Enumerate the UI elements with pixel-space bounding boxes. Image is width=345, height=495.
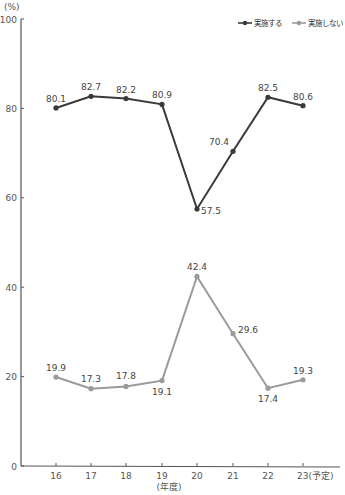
data-point (123, 96, 128, 101)
data-label: 17.3 (81, 374, 101, 384)
y-tick-label: 60 (6, 193, 18, 203)
data-point (88, 94, 93, 99)
x-tick-label: 16 (50, 471, 62, 481)
series-line (56, 276, 303, 388)
data-label: 82.7 (81, 82, 101, 92)
x-tick-label: 19 (156, 471, 168, 481)
data-label: 80.1 (46, 94, 66, 104)
line-chart: (%) 0204060801001617181920212223(予定) 80.… (0, 0, 345, 495)
data-label: 80.6 (293, 92, 313, 102)
data-point (53, 105, 58, 110)
data-label: 82.2 (116, 85, 136, 95)
series-implement: 80.182.782.280.957.570.482.580.6 (46, 82, 313, 216)
data-point (159, 378, 164, 383)
data-point (88, 386, 93, 391)
legend: 実施する実施しない (238, 18, 343, 28)
data-label: 17.4 (258, 394, 278, 404)
series-group: 80.182.782.280.957.570.482.580.619.917.3… (46, 82, 313, 404)
data-label: 42.4 (187, 262, 207, 272)
y-tick-label: 40 (6, 283, 18, 293)
data-label: 80.9 (152, 90, 172, 100)
data-point (123, 384, 128, 389)
data-label: 82.5 (258, 83, 278, 93)
x-tick-label: 23(予定) (297, 470, 333, 481)
x-tick-label: 20 (191, 471, 203, 481)
y-axis-label: (%) (4, 2, 20, 12)
legend-marker-icon (297, 21, 301, 25)
legend-marker-icon (243, 21, 247, 25)
y-tick-label: 100 (0, 15, 17, 25)
data-point (265, 95, 270, 100)
legend-label: 実施する (254, 18, 282, 28)
x-axis (21, 466, 340, 467)
axes: 0204060801001617181920212223(予定) (0, 15, 340, 482)
data-label: 19.1 (152, 387, 172, 397)
y-tick-label: 80 (6, 104, 18, 114)
data-point (53, 374, 58, 379)
data-label: 70.4 (209, 137, 229, 147)
y-tick-label: 20 (6, 372, 18, 382)
data-label: 19.9 (46, 363, 66, 373)
data-point (230, 149, 235, 154)
data-label: 17.8 (116, 371, 136, 381)
series-line (56, 96, 303, 209)
x-tick-label: 17 (85, 471, 96, 481)
x-tick-label: 18 (120, 471, 132, 481)
data-point (300, 103, 305, 108)
data-label: 19.3 (293, 366, 313, 376)
x-tick-label: 21 (227, 471, 238, 481)
data-point (194, 274, 199, 279)
data-point (230, 331, 235, 336)
x-axis-label: (年度) (156, 481, 181, 492)
x-tick-label: 22 (262, 471, 273, 481)
data-label: 29.6 (238, 325, 258, 335)
data-point (159, 102, 164, 107)
y-tick-label: 0 (11, 462, 17, 472)
legend-label: 実施しない (308, 18, 343, 28)
data-point (265, 386, 270, 391)
series-not-implement: 19.917.317.819.142.429.617.419.3 (46, 262, 313, 404)
data-point (194, 206, 199, 211)
data-label: 57.5 (201, 206, 221, 216)
data-point (300, 377, 305, 382)
